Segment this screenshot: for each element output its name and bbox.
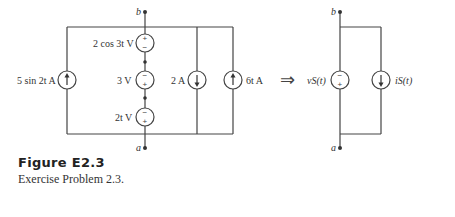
current-source-2a xyxy=(188,71,206,89)
node-b-label: b xyxy=(331,6,336,17)
svg-text:+: + xyxy=(338,80,343,89)
node-a-dot xyxy=(338,146,342,150)
node-a-label: a xyxy=(136,142,141,153)
label-is: iS(t) xyxy=(395,75,413,87)
svg-text:+: + xyxy=(143,117,148,126)
node-a-dot xyxy=(143,146,147,150)
voltage-source-2t: − + xyxy=(136,108,154,126)
figure-caption: Exercise Problem 2.3. xyxy=(18,172,124,187)
voltage-source-3v: − + xyxy=(136,71,154,89)
svg-text:−: − xyxy=(143,108,148,117)
label-2a: 2 A xyxy=(171,75,186,86)
current-source-6t xyxy=(224,71,242,89)
node-a-label: a xyxy=(331,142,336,153)
svg-text:−: − xyxy=(338,71,343,80)
junction-dot xyxy=(143,60,147,64)
svg-text:−: − xyxy=(143,71,148,80)
label-6t: 6t A xyxy=(246,75,264,86)
current-source-is xyxy=(372,71,390,89)
label-5sin2t: 5 sin 2t A xyxy=(17,75,56,86)
node-b-dot xyxy=(143,10,147,14)
label-vs: vS(t) xyxy=(307,75,327,87)
node-b-dot xyxy=(338,10,342,14)
voltage-source-vs: − + xyxy=(331,71,349,89)
current-source-5sin2t xyxy=(58,71,76,89)
label-3v: 3 V xyxy=(117,75,132,86)
junction-dot xyxy=(143,96,147,100)
label-2cos3t: 2 cos 3t V xyxy=(93,38,134,49)
voltage-source-2cos3t: + − xyxy=(136,34,154,52)
figure-title: Figure E2.3 xyxy=(18,155,105,170)
node-b-label: b xyxy=(136,6,141,17)
label-2t: 2t V xyxy=(115,112,133,123)
implies-arrow-icon: ⇒ xyxy=(280,69,295,90)
svg-text:+: + xyxy=(143,34,148,43)
svg-text:+: + xyxy=(143,80,148,89)
svg-text:−: − xyxy=(143,43,148,52)
